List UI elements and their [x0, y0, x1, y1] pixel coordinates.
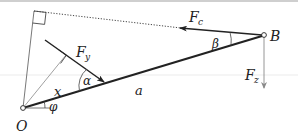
label-o: O	[16, 118, 28, 134]
label-fc: F c	[188, 9, 203, 27]
right-angle-marker-fc	[33, 11, 46, 24]
label-fy-sub: y	[84, 52, 91, 62]
label-fz-sub: z	[253, 75, 259, 85]
lever-arm-fc	[23, 11, 34, 108]
label-x: x	[54, 84, 62, 99]
label-a: a	[135, 83, 143, 98]
beta-arc	[230, 32, 231, 45]
label-phi: φ	[49, 100, 58, 114]
label-b: B	[269, 28, 280, 44]
force-fy-arrow	[45, 40, 104, 82]
force-fc-arrow	[180, 28, 262, 35]
label-fz: F z	[244, 67, 259, 85]
label-beta: β	[211, 37, 219, 51]
top-border	[0, 0, 298, 2]
label-fc-sub: c	[198, 17, 203, 27]
point-b-marker	[262, 33, 267, 38]
fc-line-of-action	[34, 11, 181, 28]
point-o-marker	[21, 106, 26, 111]
label-alpha: α	[83, 74, 91, 88]
force-diagram: O B a x α β φ F c F y F z	[0, 0, 298, 138]
diagram-canvas: O B a x α β φ F c F y F z	[0, 0, 298, 138]
label-fy: F y	[75, 44, 91, 62]
lever-arm-fy	[23, 55, 66, 108]
